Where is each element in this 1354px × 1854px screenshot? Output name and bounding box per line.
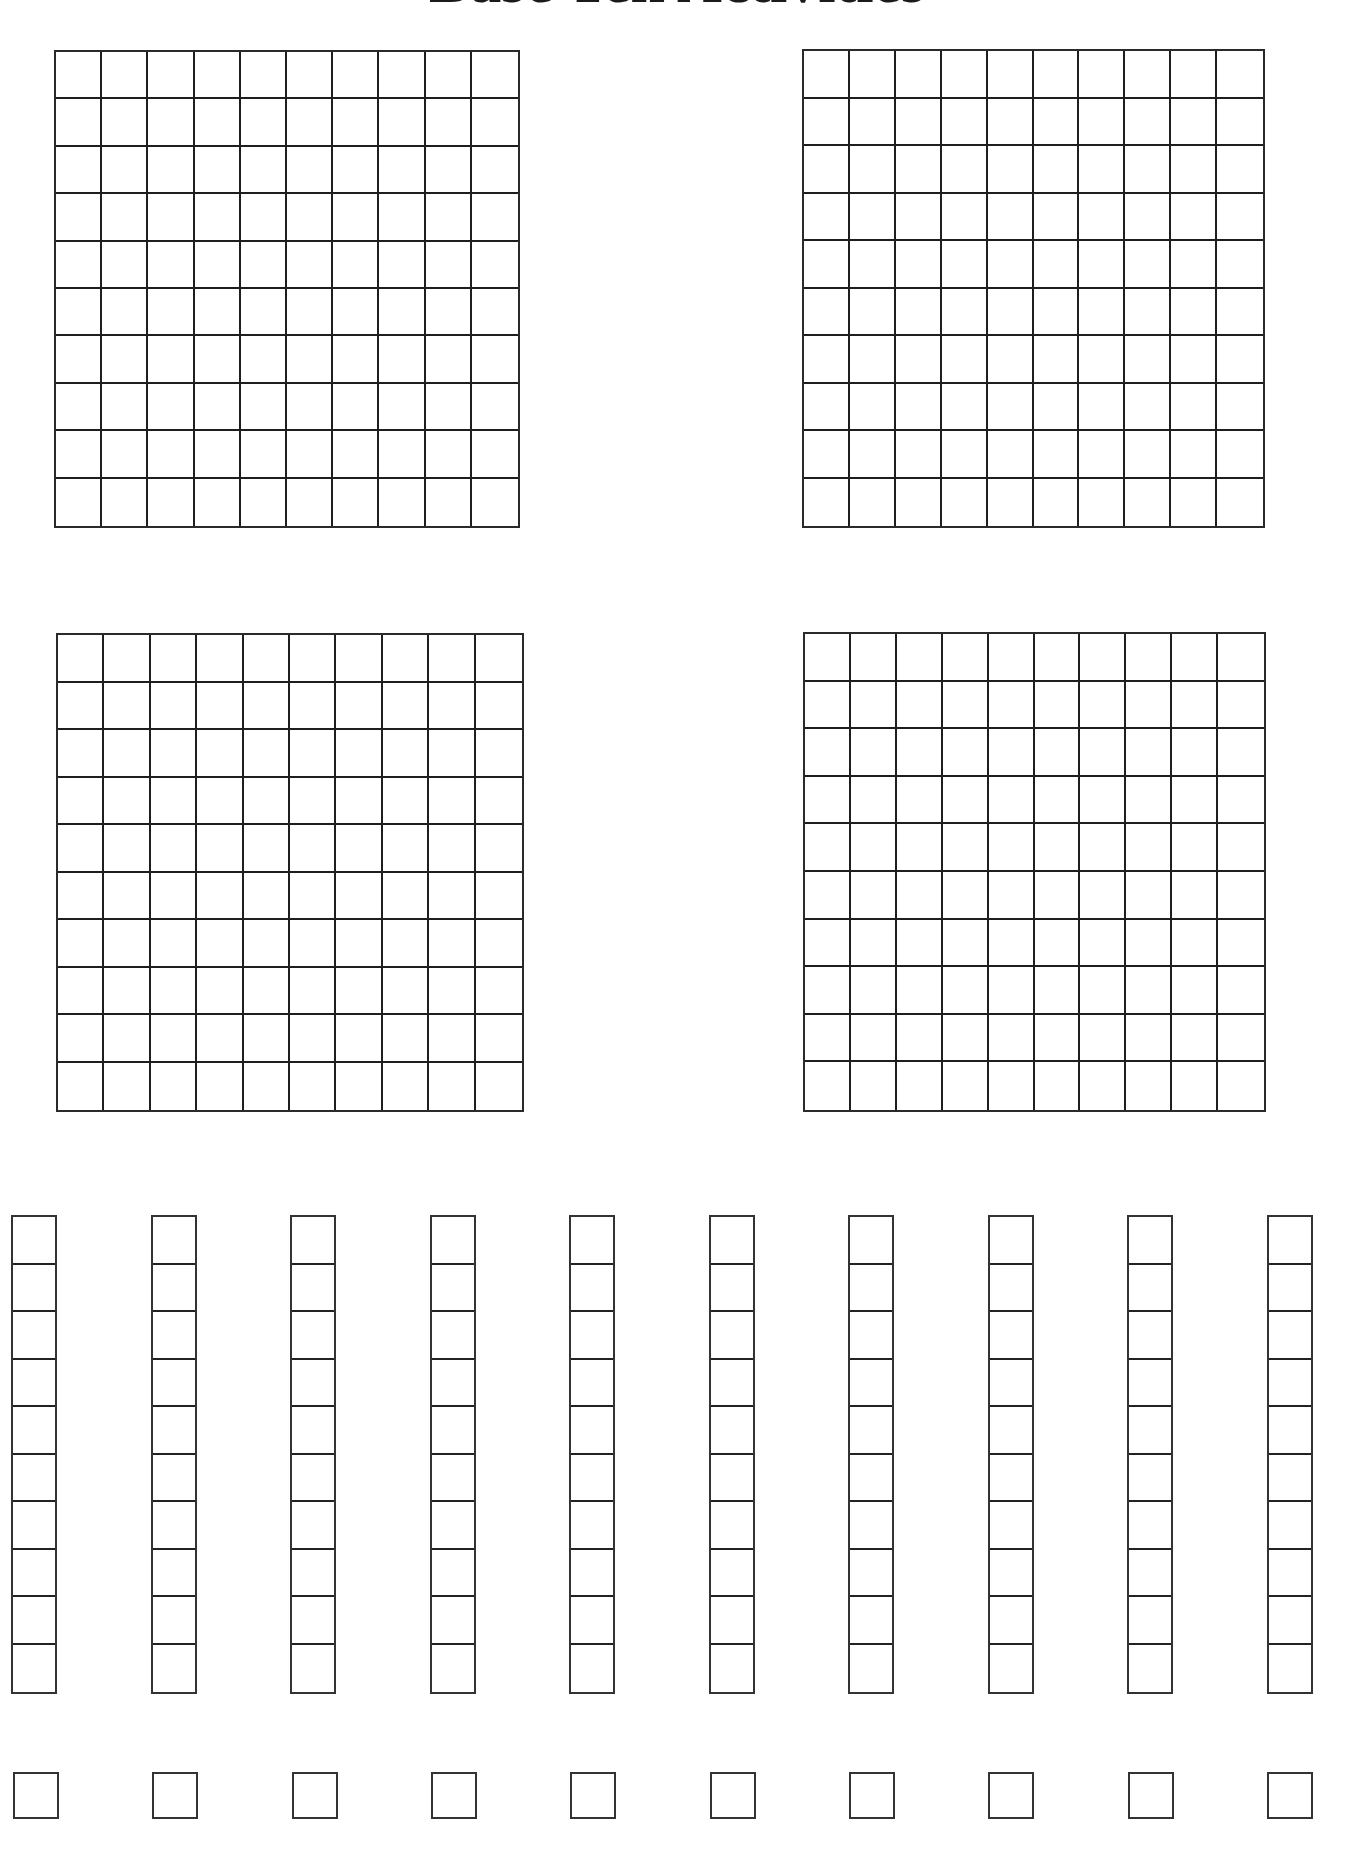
rod-cell: [571, 1597, 613, 1645]
grid-cell: [1217, 194, 1263, 242]
rod-cell: [432, 1217, 474, 1265]
grid-cell: [472, 336, 518, 383]
grid-cell: [1125, 289, 1171, 337]
grid-cell: [897, 634, 943, 682]
rod-cell: [850, 1550, 892, 1598]
rod-cell: [292, 1455, 334, 1503]
grid-cell: [989, 920, 1035, 968]
rod-cell: [153, 1455, 195, 1503]
grid-cell: [1080, 682, 1126, 730]
grid-cell: [988, 384, 1034, 432]
rod-cell: [1129, 1360, 1171, 1408]
grid-cell: [942, 336, 988, 384]
grid-cell: [197, 730, 243, 778]
grid-cell: [429, 920, 475, 968]
grid-cell: [429, 873, 475, 921]
grid-cell: [429, 778, 475, 826]
rod-cell: [1269, 1550, 1311, 1598]
grid-cell: [1217, 289, 1263, 337]
grid-cell: [379, 99, 425, 146]
grid-cell: [379, 52, 425, 99]
rod-cell: [711, 1502, 753, 1550]
grid-cell: [379, 147, 425, 194]
grid-cell: [1125, 194, 1171, 242]
grid-cell: [989, 824, 1035, 872]
grid-cell: [896, 146, 942, 194]
grid-cell: [1172, 634, 1218, 682]
grid-cell: [804, 146, 850, 194]
grid-cell: [850, 241, 896, 289]
grid-cell: [805, 682, 851, 730]
grid-cell: [195, 479, 241, 526]
grid-cell: [426, 242, 472, 289]
grid-cell: [244, 968, 290, 1016]
rod-cell: [990, 1360, 1032, 1408]
grid-cell: [429, 683, 475, 731]
grid-cell: [1125, 431, 1171, 479]
grid-cell: [102, 194, 148, 241]
rod-cell: [711, 1265, 753, 1313]
rod-cell: [292, 1407, 334, 1455]
unit-cube: [710, 1772, 756, 1819]
rod-cell: [711, 1645, 753, 1693]
grid-cell: [988, 99, 1034, 147]
grid-cell: [244, 825, 290, 873]
grid-cell: [290, 1063, 336, 1111]
grid-cell: [476, 920, 522, 968]
rod-cell: [990, 1645, 1032, 1693]
grid-cell: [151, 1015, 197, 1063]
grid-cell: [333, 336, 379, 383]
grid-cell: [1034, 431, 1080, 479]
grid-cell: [197, 968, 243, 1016]
grid-cell: [1080, 920, 1126, 968]
grid-cell: [1172, 777, 1218, 825]
rod-cell: [292, 1312, 334, 1360]
grid-cell: [429, 825, 475, 873]
grid-cell: [379, 336, 425, 383]
grid-cell: [1125, 336, 1171, 384]
grid-cell: [804, 51, 850, 99]
grid-cell: [287, 99, 333, 146]
hundred-flat: [54, 50, 520, 528]
grid-cell: [102, 384, 148, 431]
grid-cell: [804, 241, 850, 289]
rod-cell: [990, 1265, 1032, 1313]
rod-cell: [1269, 1265, 1311, 1313]
grid-cell: [804, 336, 850, 384]
grid-cell: [472, 431, 518, 478]
grid-cell: [287, 384, 333, 431]
rod-cell: [571, 1265, 613, 1313]
grid-cell: [850, 51, 896, 99]
grid-cell: [1080, 824, 1126, 872]
rod-cell: [1269, 1455, 1311, 1503]
grid-cell: [897, 729, 943, 777]
grid-cell: [1126, 1062, 1172, 1110]
ten-rod: [709, 1215, 755, 1694]
grid-cell: [333, 52, 379, 99]
rod-cell: [153, 1645, 195, 1693]
grid-cell: [988, 336, 1034, 384]
grid-cell: [1035, 729, 1081, 777]
grid-cell: [1126, 872, 1172, 920]
grid-cell: [476, 635, 522, 683]
unit-cube: [988, 1772, 1034, 1819]
grid-cell: [1218, 682, 1264, 730]
grid-cell: [1217, 146, 1263, 194]
rod-cell: [711, 1550, 753, 1598]
grid-cell: [943, 967, 989, 1015]
rod-cell: [1269, 1502, 1311, 1550]
grid-cell: [1217, 241, 1263, 289]
rod-cell: [571, 1360, 613, 1408]
grid-cell: [989, 682, 1035, 730]
grid-cell: [102, 147, 148, 194]
grid-cell: [58, 920, 104, 968]
grid-cell: [896, 289, 942, 337]
grid-cell: [943, 824, 989, 872]
grid-cell: [379, 242, 425, 289]
grid-cell: [1080, 1015, 1126, 1063]
grid-cell: [383, 968, 429, 1016]
grid-cell: [851, 920, 897, 968]
grid-cell: [244, 1015, 290, 1063]
grid-cell: [241, 99, 287, 146]
grid-cell: [1035, 824, 1081, 872]
